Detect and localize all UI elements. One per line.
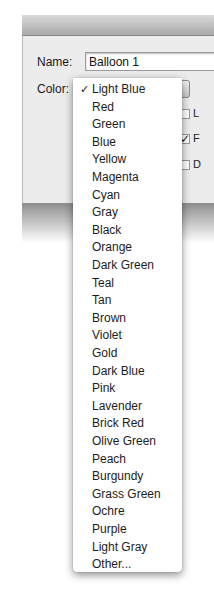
menu-item-label: Blue — [92, 134, 116, 152]
menu-item-label: Red — [92, 99, 114, 117]
menu-item-label: Peach — [92, 451, 126, 469]
menu-item-label: Black — [92, 222, 121, 240]
menu-item-label: Brick Red — [92, 415, 144, 433]
menu-item-label: Light Gray — [92, 539, 147, 557]
menu-item-tan[interactable]: Tan — [73, 292, 182, 310]
name-input[interactable]: Balloon 1 — [85, 52, 214, 71]
menu-item-violet[interactable]: Violet — [73, 327, 182, 345]
menu-item-lavender[interactable]: Lavender — [73, 398, 182, 416]
menu-item-ochre[interactable]: Ochre — [73, 503, 182, 521]
color-dropdown-menu: ✓Light BlueRedGreenBlueYellowMagentaCyan… — [73, 78, 182, 572]
menu-item-purple[interactable]: Purple — [73, 521, 182, 539]
menu-item-other[interactable]: Other... — [73, 556, 182, 574]
menu-item-label: Yellow — [92, 151, 126, 169]
menu-item-olive-green[interactable]: Olive Green — [73, 433, 182, 451]
menu-item-blue[interactable]: Blue — [73, 134, 182, 152]
menu-item-dark-blue[interactable]: Dark Blue — [73, 363, 182, 381]
menu-item-orange[interactable]: Orange — [73, 239, 182, 257]
menu-item-label: Purple — [92, 521, 127, 539]
menu-item-gold[interactable]: Gold — [73, 345, 182, 363]
checkbox-f-label: F — [193, 132, 200, 144]
menu-item-label: Ochre — [92, 503, 125, 521]
menu-item-label: Light Blue — [92, 81, 145, 99]
menu-item-burgundy[interactable]: Burgundy — [73, 468, 182, 486]
menu-item-pink[interactable]: Pink — [73, 380, 182, 398]
window-titlebar — [22, 15, 214, 36]
checkbox-d[interactable] — [181, 160, 190, 170]
menu-item-brown[interactable]: Brown — [73, 310, 182, 328]
menu-item-red[interactable]: Red — [73, 99, 182, 117]
menu-item-light-gray[interactable]: Light Gray — [73, 539, 182, 557]
name-label: Name: — [37, 55, 72, 69]
menu-item-label: Dark Green — [92, 257, 154, 275]
checkbox-l-label: L — [193, 107, 199, 119]
menu-item-label: Olive Green — [92, 433, 156, 451]
color-label: Color: — [37, 82, 69, 96]
menu-item-dark-green[interactable]: Dark Green — [73, 257, 182, 275]
menu-item-label: Dark Blue — [92, 363, 145, 381]
menu-item-label: Lavender — [92, 398, 142, 416]
menu-item-light-blue[interactable]: ✓Light Blue — [73, 81, 182, 99]
menu-item-grass-green[interactable]: Grass Green — [73, 486, 182, 504]
checkbox-d-label: D — [193, 158, 201, 170]
menu-item-label: Cyan — [92, 187, 120, 205]
menu-item-brick-red[interactable]: Brick Red — [73, 415, 182, 433]
menu-item-label: Green — [92, 116, 125, 134]
checkbox-l[interactable] — [181, 109, 190, 119]
menu-item-label: Gold — [92, 345, 117, 363]
menu-item-peach[interactable]: Peach — [73, 451, 182, 469]
menu-item-label: Gray — [92, 204, 118, 222]
menu-item-yellow[interactable]: Yellow — [73, 151, 182, 169]
menu-item-label: Orange — [92, 239, 132, 257]
menu-item-label: Teal — [92, 275, 114, 293]
menu-item-label: Brown — [92, 310, 126, 328]
menu-item-label: Grass Green — [92, 486, 161, 504]
menu-item-label: Violet — [92, 327, 122, 345]
menu-item-gray[interactable]: Gray — [73, 204, 182, 222]
menu-item-label: Magenta — [92, 169, 139, 187]
checkmark-icon: ✓ — [80, 81, 89, 99]
menu-item-label: Tan — [92, 292, 111, 310]
menu-item-label: Other... — [92, 556, 131, 574]
menu-item-green[interactable]: Green — [73, 116, 182, 134]
menu-item-teal[interactable]: Teal — [73, 275, 182, 293]
menu-item-black[interactable]: Black — [73, 222, 182, 240]
menu-item-label: Burgundy — [92, 468, 143, 486]
menu-item-magenta[interactable]: Magenta — [73, 169, 182, 187]
menu-item-cyan[interactable]: Cyan — [73, 187, 182, 205]
menu-item-label: Pink — [92, 380, 115, 398]
